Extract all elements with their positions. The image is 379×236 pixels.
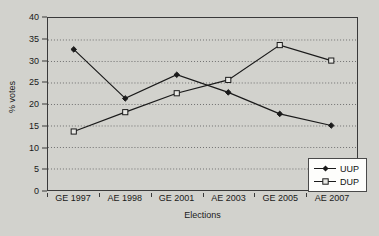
y-axis: 0510152025303540 bbox=[0, 17, 47, 191]
y-axis-tick-label: 10 bbox=[29, 143, 39, 152]
y-axis-tick-label: 15 bbox=[29, 121, 39, 130]
x-axis-tick-label: GE 2005 bbox=[262, 193, 298, 204]
y-axis-tick-label: 30 bbox=[29, 56, 39, 65]
x-axis-tick-label: AE 1998 bbox=[107, 193, 142, 204]
data-point bbox=[329, 58, 334, 63]
x-axis: GE 1997AE 1998GE 2001AE 2003GE 2005AE 20… bbox=[47, 193, 358, 207]
legend-label: DUP bbox=[340, 177, 359, 187]
y-axis-tick-label: 20 bbox=[29, 100, 39, 109]
x-axis-tick-label: GE 1997 bbox=[55, 193, 91, 204]
y-axis-tick-label: 35 bbox=[29, 34, 39, 43]
legend-label: UUP bbox=[340, 164, 359, 174]
x-axis-tick-mark bbox=[151, 193, 152, 197]
x-axis-title: Elections bbox=[47, 210, 358, 220]
x-axis-tick-label: AE 2007 bbox=[315, 193, 350, 204]
x-axis-tick-mark bbox=[203, 193, 204, 197]
y-axis-tick-label: 0 bbox=[34, 187, 39, 196]
y-axis-tick-label: 40 bbox=[29, 13, 39, 22]
data-point bbox=[71, 129, 76, 134]
legend-marker-filled-diamond bbox=[314, 164, 336, 173]
y-axis-tick-label: 5 bbox=[34, 165, 39, 174]
data-point bbox=[277, 43, 282, 48]
x-axis-tick-label: AE 2003 bbox=[211, 193, 246, 204]
data-point bbox=[226, 77, 231, 82]
data-point bbox=[174, 72, 180, 78]
y-axis-tick-label: 25 bbox=[29, 78, 39, 87]
legend-marker-open-square bbox=[314, 177, 336, 186]
data-point bbox=[277, 111, 283, 117]
data-point bbox=[225, 90, 231, 96]
x-axis-tick-mark bbox=[254, 193, 255, 197]
data-point bbox=[328, 123, 334, 129]
x-axis-tick-mark bbox=[99, 193, 100, 197]
legend-item-dup: DUP bbox=[314, 175, 359, 188]
data-point bbox=[123, 110, 128, 115]
data-point bbox=[174, 91, 179, 96]
x-axis-tick-mark bbox=[47, 193, 48, 197]
line-chart: % votes 0510152025303540 GE 1997AE 1998G… bbox=[0, 0, 379, 236]
legend: UUPDUP bbox=[308, 158, 367, 192]
x-axis-tick-label: GE 2001 bbox=[159, 193, 195, 204]
legend-item-uup: UUP bbox=[314, 162, 359, 175]
x-axis-tick-mark bbox=[306, 193, 307, 197]
